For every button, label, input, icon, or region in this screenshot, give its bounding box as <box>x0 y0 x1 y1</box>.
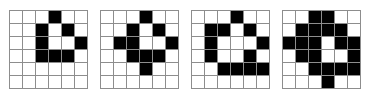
grid-cell-filled <box>140 11 152 23</box>
grid-cell-empty <box>36 63 48 75</box>
grid-cell-empty <box>192 24 204 36</box>
grid-cell-empty <box>244 37 256 49</box>
grid-cell-empty <box>10 63 22 75</box>
grid-cell-empty <box>23 11 35 23</box>
grid-cell-empty <box>23 63 35 75</box>
grid-cell-empty <box>23 50 35 62</box>
binary-grid <box>191 10 270 89</box>
grid-cell-empty <box>283 11 295 23</box>
panel-spacer <box>179 49 191 50</box>
grid-cell-empty <box>192 63 204 75</box>
grid-cell-filled <box>36 37 48 49</box>
grid-cell-empty <box>127 63 139 75</box>
grid-cell-filled <box>140 50 152 62</box>
grid-cell-empty <box>153 63 165 75</box>
grid-cell-empty <box>10 76 22 88</box>
grid-cell-empty <box>62 11 74 23</box>
grid-cell-filled <box>49 11 61 23</box>
grid-cell-filled <box>322 24 334 36</box>
grid-cell-empty <box>114 76 126 88</box>
grid-cell-empty <box>10 50 22 62</box>
grid-cell-filled <box>309 37 321 49</box>
grid-cell-filled <box>36 50 48 62</box>
grid-cell-empty <box>166 76 178 88</box>
grid-cell-empty <box>218 11 230 23</box>
grid-cell-empty <box>231 37 243 49</box>
grid-cell-empty <box>114 63 126 75</box>
grid-cell-empty <box>75 50 87 62</box>
grid-cell-filled <box>322 76 334 88</box>
grid-cell-empty <box>244 11 256 23</box>
grid-cell-empty <box>10 24 22 36</box>
grid-cell-empty <box>218 37 230 49</box>
grid-cell-filled <box>205 37 217 49</box>
grid-cell-filled <box>309 50 321 62</box>
grid-cell-empty <box>49 37 61 49</box>
grid-cell-empty <box>205 76 217 88</box>
grid-cell-filled <box>218 24 230 36</box>
grid-cell-empty <box>283 76 295 88</box>
grid-cell-empty <box>166 24 178 36</box>
grid-cell-empty <box>75 24 87 36</box>
grid-cell-empty <box>75 11 87 23</box>
grid-cell-empty <box>23 24 35 36</box>
grid-cell-filled <box>140 63 152 75</box>
grid-cell-filled <box>296 24 308 36</box>
grid-cell-filled <box>75 37 87 49</box>
grid-cell-empty <box>114 24 126 36</box>
grid-cell-filled <box>244 50 256 62</box>
grid-cell-empty <box>153 11 165 23</box>
grid-cell-empty <box>10 11 22 23</box>
binary-grid <box>9 10 88 89</box>
grid-cell-empty <box>348 24 360 36</box>
grid-cell-filled <box>153 24 165 36</box>
grid-cell-filled <box>309 24 321 36</box>
grid-cell-empty <box>23 76 35 88</box>
grid-cell-filled <box>309 11 321 23</box>
grid-cell-empty <box>140 24 152 36</box>
grid-cell-empty <box>192 50 204 62</box>
grid-cell-empty <box>192 11 204 23</box>
grid-cell-filled <box>309 63 321 75</box>
grid-cell-empty <box>322 37 334 49</box>
grid-cell-empty <box>75 63 87 75</box>
grid-cell-empty <box>166 50 178 62</box>
grid-cell-empty <box>231 76 243 88</box>
grid-panel <box>9 10 88 89</box>
grid-cell-empty <box>335 11 347 23</box>
grid-cell-empty <box>10 37 22 49</box>
grid-cell-empty <box>75 76 87 88</box>
grid-cell-filled <box>62 24 74 36</box>
grid-cell-filled <box>335 37 347 49</box>
grid-cell-empty <box>283 50 295 62</box>
grid-cell-empty <box>101 63 113 75</box>
grid-cell-filled <box>283 37 295 49</box>
grid-cell-empty <box>296 11 308 23</box>
grid-cell-empty <box>348 11 360 23</box>
grid-cell-filled <box>296 37 308 49</box>
grid-panel <box>191 10 270 89</box>
grid-cell-empty <box>166 63 178 75</box>
grid-cell-filled <box>322 63 334 75</box>
grid-cell-empty <box>192 76 204 88</box>
grid-cell-filled <box>127 50 139 62</box>
grid-cell-empty <box>36 11 48 23</box>
grid-cell-empty <box>62 63 74 75</box>
grid-cell-filled <box>231 63 243 75</box>
grid-cell-filled <box>296 50 308 62</box>
binary-grid <box>282 10 361 89</box>
grid-cell-filled <box>62 50 74 62</box>
grid-cell-filled <box>335 24 347 36</box>
grid-cell-filled <box>153 50 165 62</box>
grid-cell-filled <box>244 63 256 75</box>
grid-cell-empty <box>140 76 152 88</box>
grid-cell-empty <box>101 37 113 49</box>
grid-sequence-figure <box>0 0 388 99</box>
grid-cell-filled <box>335 63 347 75</box>
grid-cell-empty <box>257 76 269 88</box>
panel-spacer <box>270 49 282 50</box>
grid-cell-empty <box>335 76 347 88</box>
panel-spacer <box>88 49 100 50</box>
grid-cell-empty <box>296 63 308 75</box>
grid-cell-empty <box>23 37 35 49</box>
